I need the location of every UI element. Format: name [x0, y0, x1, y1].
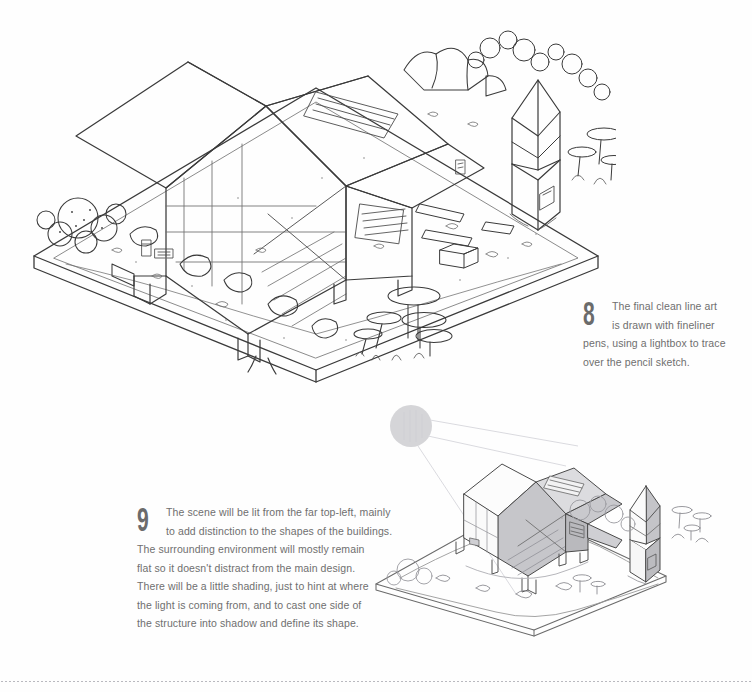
caption-8-line-1: The final clean line art — [605, 297, 743, 316]
caption-9-number: 9 — [137, 504, 151, 534]
caption-step-8: 8 The final clean line art is drawn with… — [583, 297, 743, 371]
caption-9-body: The scene will be lit from the far top-l… — [137, 503, 377, 633]
mushroom-cluster-right — [568, 128, 616, 184]
footer-dotted-divider — [0, 681, 752, 682]
deck-objects — [142, 240, 173, 258]
caption-8-line-2: is drawn with fineliner — [605, 316, 743, 335]
tower-outbuilding-shaded — [628, 486, 660, 584]
caption-8-line-3: pens, using a lightbox to trace — [583, 334, 743, 353]
caption-9-line-7: the structure into shadow and define its… — [137, 614, 377, 633]
mushroom-cluster-shaded — [672, 507, 711, 543]
caption-9-line-1: The scene will be lit from the far top-l… — [160, 503, 377, 522]
bush-cluster-left — [37, 198, 126, 253]
caption-9-line-5: There will be a little shading, just to … — [137, 577, 377, 596]
caption-8-line-4: over the pencil sketch. — [583, 353, 743, 372]
caption-9-line-2: to add distinction to the shapes of the … — [160, 522, 377, 541]
main-illustration — [16, 18, 616, 388]
caption-9-line-3: The surrounding environment will mostly … — [137, 540, 377, 559]
rocks-foreground — [130, 227, 338, 338]
bush-cluster-ridge — [468, 31, 610, 100]
caption-9-line-4: flat so it doesn't distract from the mai… — [137, 559, 377, 578]
caption-8-body: The final clean line art is drawn with f… — [583, 297, 743, 371]
caption-9-line-6: the light is coming from, and to cast on… — [137, 596, 377, 615]
shaded-illustration — [366, 398, 726, 638]
a-frame-cabin-shaded — [456, 464, 622, 594]
roof-skylight — [304, 92, 398, 138]
pebbles — [112, 112, 532, 307]
caption-8-number: 8 — [583, 298, 597, 328]
debris-planks — [416, 204, 514, 268]
sketchbook-page: 8 The final clean line art is drawn with… — [0, 0, 752, 692]
caption-step-9: 9 The scene will be lit from the far top… — [137, 503, 377, 633]
ground-slab — [34, 88, 598, 382]
light-source-sun — [390, 405, 432, 447]
rock-outcrop — [404, 48, 506, 96]
